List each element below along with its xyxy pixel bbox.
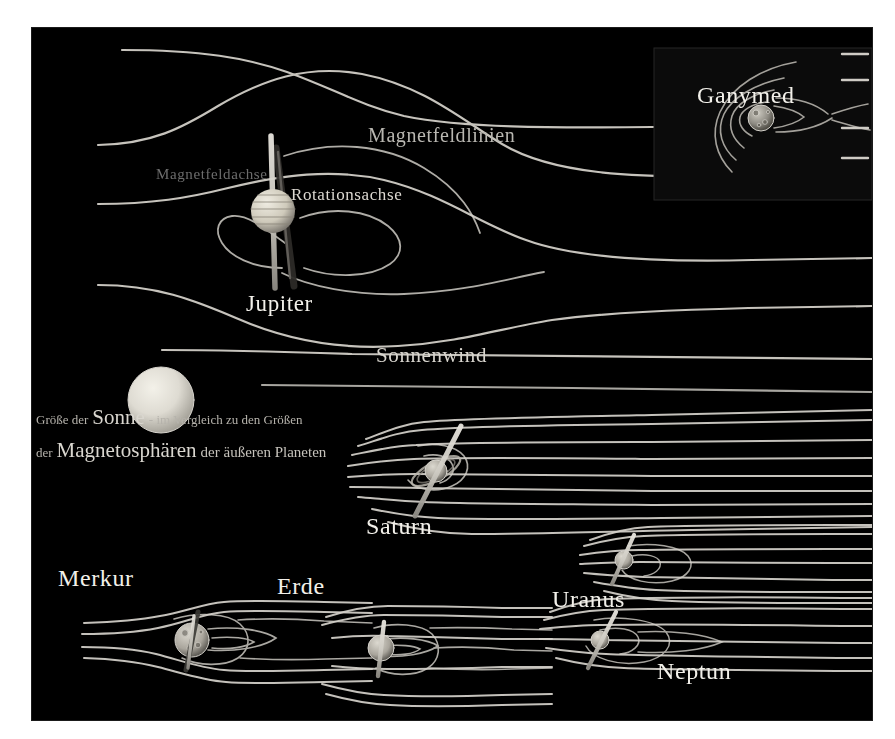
figure-page: Magnetfeldlinien Magnetfeldachse Rotatio… xyxy=(0,0,895,739)
sonnenwind-line xyxy=(162,350,872,359)
ganymed-inset-panel xyxy=(654,48,872,200)
ganymed-body xyxy=(748,105,774,131)
erde-rotation-axis xyxy=(378,622,384,676)
merkur-field-lines xyxy=(82,601,372,683)
magnetosphere-diagram-svg xyxy=(32,28,872,720)
jupiter-planet xyxy=(251,189,295,233)
diagram-plate: Magnetfeldlinien Magnetfeldachse Rotatio… xyxy=(32,28,872,720)
sun-disc xyxy=(128,367,194,433)
